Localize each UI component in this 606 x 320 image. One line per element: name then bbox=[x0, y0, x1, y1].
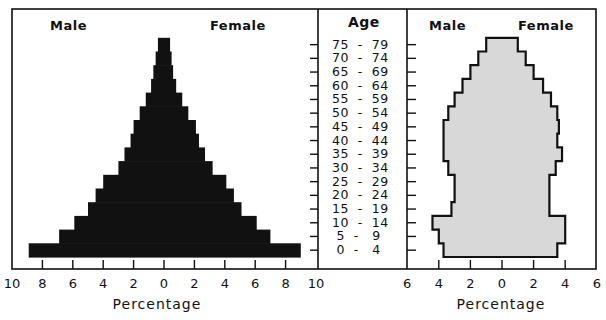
chart-canvas bbox=[0, 0, 606, 320]
left-female-label: Female bbox=[210, 18, 266, 33]
x-tick-label: 10 bbox=[308, 276, 325, 291]
age-group-label: 15 - 19 bbox=[332, 201, 389, 216]
pyramid-bar-60-64 bbox=[151, 79, 176, 93]
age-group-label: 0 - 4 bbox=[332, 242, 381, 257]
age-group-label: 5 - 9 bbox=[332, 228, 381, 243]
age-header: Age bbox=[348, 14, 380, 30]
x-tick-label: 2 bbox=[529, 276, 537, 291]
pyramid-bar-50-54 bbox=[140, 106, 189, 120]
age-group-label: 70 - 74 bbox=[332, 50, 389, 65]
x-tick-label: 2 bbox=[129, 276, 137, 291]
x-tick-label: 2 bbox=[190, 276, 198, 291]
pyramid-bar-25-29 bbox=[103, 175, 226, 189]
x-tick-label: 4 bbox=[561, 276, 569, 291]
age-group-label: 20 - 24 bbox=[332, 187, 389, 202]
pyramid-bar-40-44 bbox=[131, 134, 199, 148]
age-group-label: 40 - 44 bbox=[332, 133, 389, 148]
x-tick-label: 8 bbox=[281, 276, 289, 291]
age-group-label: 75 - 79 bbox=[332, 37, 389, 52]
pyramid-bar-45-49 bbox=[134, 120, 196, 134]
x-tick-label: 10 bbox=[4, 276, 21, 291]
x-tick-label: 8 bbox=[38, 276, 46, 291]
population-pyramid-figure: Male Female Percentage Age Male Female P… bbox=[0, 0, 606, 320]
pyramid-bar-5-9 bbox=[59, 230, 270, 244]
left-x-axis-label: Percentage bbox=[113, 296, 202, 312]
pyramid-bar-65-69 bbox=[153, 65, 173, 79]
x-tick-label: 6 bbox=[69, 276, 77, 291]
pyramid-bar-30-34 bbox=[118, 161, 212, 175]
x-tick-label: 6 bbox=[593, 276, 601, 291]
pyramid-bar-35-39 bbox=[124, 147, 205, 161]
pyramid-bar-75-79 bbox=[158, 38, 170, 52]
age-group-label: 55 - 59 bbox=[332, 91, 389, 106]
age-group-label: 45 - 49 bbox=[332, 119, 389, 134]
pyramid-bar-70-74 bbox=[156, 52, 172, 66]
pyramid-bar-55-59 bbox=[146, 93, 182, 107]
x-tick-label: 4 bbox=[435, 276, 443, 291]
pyramid-bar-10-14 bbox=[74, 216, 256, 230]
age-group-label: 25 - 29 bbox=[332, 174, 389, 189]
x-tick-label: 4 bbox=[221, 276, 229, 291]
right-female-label: Female bbox=[518, 18, 574, 33]
x-tick-label: 4 bbox=[99, 276, 107, 291]
pyramid-outline-shape bbox=[432, 38, 565, 257]
pyramid-bar-15-19 bbox=[88, 202, 242, 216]
age-group-label: 10 - 14 bbox=[332, 215, 389, 230]
age-group-label: 30 - 34 bbox=[332, 160, 389, 175]
left-male-label: Male bbox=[50, 18, 87, 33]
x-tick-label: 6 bbox=[251, 276, 259, 291]
age-group-label: 65 - 69 bbox=[332, 64, 389, 79]
x-tick-label: 2 bbox=[466, 276, 474, 291]
age-group-label: 50 - 54 bbox=[332, 105, 389, 120]
right-male-label: Male bbox=[429, 18, 466, 33]
pyramid-bar-20-24 bbox=[96, 189, 234, 203]
x-tick-label: 0 bbox=[498, 276, 506, 291]
x-tick-label: 6 bbox=[403, 276, 411, 291]
right-x-axis-label: Percentage bbox=[457, 296, 546, 312]
pyramid-bar-0-4 bbox=[29, 243, 301, 257]
x-tick-label: 0 bbox=[160, 276, 168, 291]
age-group-label: 35 - 39 bbox=[332, 146, 389, 161]
age-group-label: 60 - 64 bbox=[332, 78, 389, 93]
